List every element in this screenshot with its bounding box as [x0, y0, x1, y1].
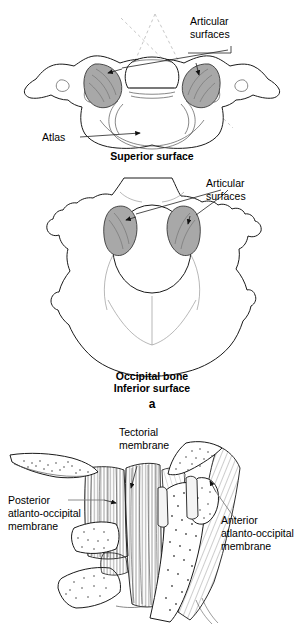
- ligamentum-flavum: [101, 553, 128, 575]
- label-articular-surfaces-superior-line2: surfaces: [190, 28, 230, 40]
- panel-letter-a: a: [149, 397, 156, 411]
- label-articular-surfaces-superior-line1: Articular: [190, 15, 229, 27]
- label-anterior-line2: atlanto-occipital: [221, 527, 294, 539]
- label-posterior-line1: Posterior: [8, 494, 51, 506]
- label-posterior-line3: membrane: [8, 520, 58, 532]
- label-tectorial-line1: Tectorial: [119, 426, 158, 438]
- label-anterior-line3: membrane: [221, 540, 271, 552]
- apical-ligament-left: [158, 487, 168, 527]
- apical-ligament-right: [186, 476, 198, 519]
- caption-inferior-surface: Inferior surface: [114, 382, 191, 394]
- anatomy-figure: Articular surfaces Atlas Superior surfac…: [0, 0, 304, 628]
- label-articular-surfaces-inferior-line1: Articular: [206, 177, 245, 189]
- caption-occipital-bone: Occipital bone: [116, 370, 189, 382]
- label-atlas: Atlas: [42, 131, 65, 143]
- caption-superior-surface: Superior surface: [110, 150, 194, 162]
- label-articular-surfaces-inferior-line2: surfaces: [206, 190, 246, 202]
- label-anterior-line1: Anterior: [221, 514, 258, 526]
- label-tectorial-line2: membrane: [119, 439, 169, 451]
- label-posterior-line2: atlanto-occipital: [8, 507, 81, 519]
